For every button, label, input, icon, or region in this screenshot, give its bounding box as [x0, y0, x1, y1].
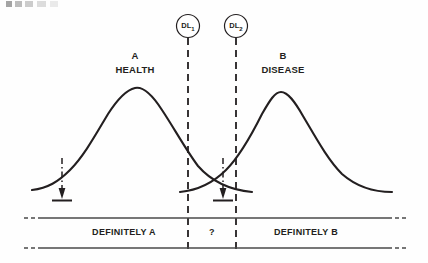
curve-b-name: DISEASE [252, 64, 314, 76]
curve-b-letter: B [258, 50, 308, 62]
dl2-label-text: DL [229, 21, 239, 30]
marker-left [52, 158, 72, 201]
curve-b-disease [180, 92, 392, 192]
marker-left-arrowhead [59, 188, 66, 199]
dl2-label-subscript: 2 [239, 26, 242, 32]
diagnostic-decision-limit-figure: DL1 DL2 A HEALTH B DISEASE DEFINITELY A … [0, 0, 428, 263]
band-label-definitely-a: DEFINITELY A [60, 227, 188, 237]
dl1-label-subscript: 1 [191, 26, 194, 32]
marker-right-arrowhead [220, 188, 227, 199]
curve-a-name: HEALTH [105, 64, 165, 76]
band-label-definitely-b: DEFINITELY B [236, 227, 376, 237]
dl2-label: DL2 [224, 21, 248, 33]
curve-a-letter: A [110, 50, 160, 62]
figure-canvas [0, 0, 428, 263]
dl1-label: DL1 [176, 21, 200, 33]
dl1-label-text: DL [181, 21, 191, 30]
band-label-question: ? [188, 227, 236, 237]
